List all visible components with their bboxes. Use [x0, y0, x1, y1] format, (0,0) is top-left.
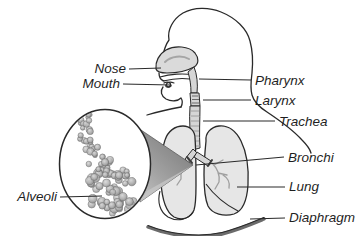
- palate-line: [160, 74, 193, 77]
- label-larynx: Larynx: [255, 93, 297, 108]
- alveolus: [102, 172, 108, 178]
- alveolus: [122, 181, 128, 187]
- label-diaphragm: Diaphragm: [289, 210, 355, 225]
- label-alveoli: Alveoli: [16, 189, 58, 204]
- alveolus: [128, 177, 136, 185]
- label-bronchi: Bronchi: [288, 150, 335, 165]
- alveolus: [87, 137, 93, 143]
- label-pharynx: Pharynx: [255, 73, 306, 88]
- alveolus: [125, 198, 133, 206]
- alveolus: [78, 133, 83, 138]
- alveolus: [110, 189, 116, 195]
- lung-right: [204, 126, 248, 215]
- alveolus: [116, 201, 123, 208]
- tongue-line: [163, 79, 190, 81]
- pharynx-tube: [188, 67, 197, 93]
- respiratory-system-diagram: Nose Mouth Pharynx Larynx Trachea Bronch…: [0, 0, 359, 236]
- alveolus: [96, 167, 101, 172]
- alveolus: [92, 151, 98, 157]
- leader-diaphragm: [250, 218, 285, 219]
- label-lung: Lung: [289, 179, 320, 194]
- alveolus: [103, 179, 111, 187]
- alveolus: [101, 159, 108, 166]
- left-shoulder-line: [147, 107, 181, 115]
- label-trachea: Trachea: [279, 114, 328, 129]
- alveolus: [94, 144, 100, 150]
- leader-mouth: [123, 84, 171, 85]
- alveolus: [96, 182, 103, 189]
- alveolus: [86, 118, 92, 124]
- alveolus: [104, 199, 110, 205]
- alveolus: [115, 172, 122, 179]
- alveolus: [125, 173, 130, 178]
- label-nose: Nose: [94, 61, 126, 76]
- diaphragm-band: [148, 219, 264, 236]
- label-mouth: Mouth: [82, 76, 120, 91]
- alveolus: [91, 174, 98, 181]
- alveolus: [87, 128, 93, 134]
- alveolus: [86, 161, 92, 167]
- diagram-canvas: Nose Mouth Pharynx Larynx Trachea Bronch…: [0, 0, 359, 236]
- leader-pharynx: [199, 79, 251, 80]
